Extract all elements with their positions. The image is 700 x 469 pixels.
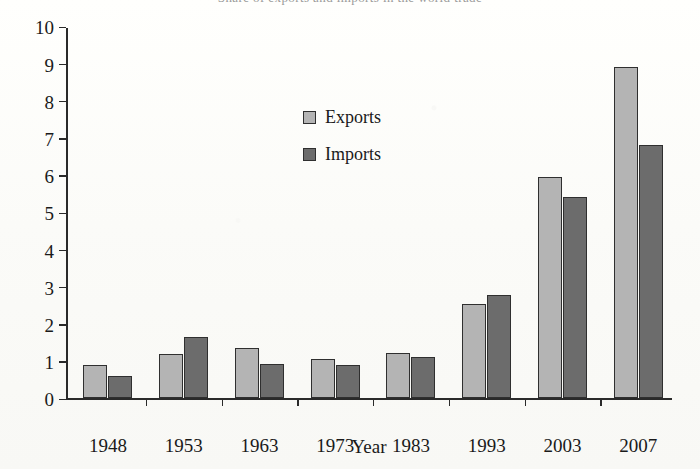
x-axis-tick (525, 400, 526, 406)
y-axis-tick-label: 6 (45, 167, 55, 186)
y-axis-tick: 3 (59, 287, 66, 288)
bar-imports-1953[interactable] (184, 337, 208, 398)
legend-item-imports[interactable]: Imports (303, 145, 381, 163)
y-axis-tick-label: 4 (45, 241, 55, 260)
x-axis-tick (297, 400, 298, 406)
y-axis-tick: 6 (59, 175, 66, 176)
y-axis-tick-label: 8 (45, 92, 55, 111)
bar-group (311, 26, 360, 398)
y-axis-tick: 0 (59, 399, 66, 400)
legend-label-exports: Exports (325, 108, 381, 126)
bar-imports-1948[interactable] (108, 376, 132, 398)
x-axis-line (66, 398, 672, 400)
bar-group (462, 26, 511, 398)
y-axis-tick: 2 (59, 324, 66, 325)
y-axis-tick: 10 (59, 27, 66, 28)
bar-exports-1993[interactable] (462, 304, 486, 399)
bar-imports-1983[interactable] (411, 357, 435, 399)
bar-exports-1963[interactable] (235, 348, 259, 398)
y-axis-tick-label: 3 (45, 278, 55, 297)
x-axis-tick (449, 400, 450, 406)
x-axis-tick (222, 400, 223, 406)
y-axis-title: The share in the world (%) (0, 0, 20, 44)
bar-group (235, 26, 284, 398)
y-axis-tick-label: 7 (45, 129, 55, 148)
legend-item-exports[interactable]: Exports (303, 108, 381, 126)
chart-legend: Exports Imports (303, 108, 381, 182)
bar-exports-2007[interactable] (614, 67, 638, 398)
bar-exports-2003[interactable] (538, 177, 562, 398)
y-axis-tick: 4 (59, 250, 66, 251)
bar-group (159, 26, 208, 398)
x-axis-title-text: Year (351, 436, 386, 457)
cropped-title-text: Share of exports and imports in the worl… (218, 0, 482, 4)
y-axis-tick: 7 (59, 138, 66, 139)
bar-group (386, 26, 435, 398)
plot-area: 012345678910 194819531963197319831993200… (66, 28, 672, 400)
y-axis-tick-label: 5 (45, 204, 55, 223)
x-axis-title: Year (66, 436, 672, 458)
cropped-title-remnant: Share of exports and imports in the worl… (0, 0, 700, 9)
bar-imports-1993[interactable] (487, 295, 511, 398)
legend-swatch-imports-icon (303, 148, 316, 161)
y-axis-tick: 5 (59, 213, 66, 214)
bar-exports-1948[interactable] (83, 365, 107, 398)
x-axis-tick (373, 400, 374, 406)
bar-exports-1973[interactable] (311, 359, 335, 398)
y-axis-tick: 9 (59, 64, 66, 65)
chart-figure: Share of exports and imports in the worl… (0, 0, 700, 469)
bar-imports-2003[interactable] (563, 197, 587, 399)
x-axis-tick (146, 400, 147, 406)
bar-imports-1973[interactable] (336, 365, 360, 398)
y-axis-tick-label: 10 (35, 18, 54, 37)
legend-label-imports: Imports (325, 145, 381, 163)
legend-swatch-exports-icon (303, 111, 316, 124)
bar-group (614, 26, 663, 398)
bar-imports-1963[interactable] (260, 364, 284, 398)
x-axis-tick (600, 400, 601, 406)
bar-imports-2007[interactable] (639, 145, 663, 398)
bar-group (538, 26, 587, 398)
bar-exports-1983[interactable] (386, 353, 410, 398)
y-axis-line (66, 28, 68, 400)
y-axis-tick: 1 (59, 361, 66, 362)
y-axis-tick-label: 9 (45, 55, 55, 74)
bar-exports-1953[interactable] (159, 354, 183, 399)
y-axis-tick-label: 2 (45, 315, 55, 334)
y-axis-tick-label: 1 (45, 353, 55, 372)
bar-group (83, 26, 132, 398)
y-axis-tick: 8 (59, 101, 66, 102)
y-axis-tick-label: 0 (45, 390, 55, 409)
